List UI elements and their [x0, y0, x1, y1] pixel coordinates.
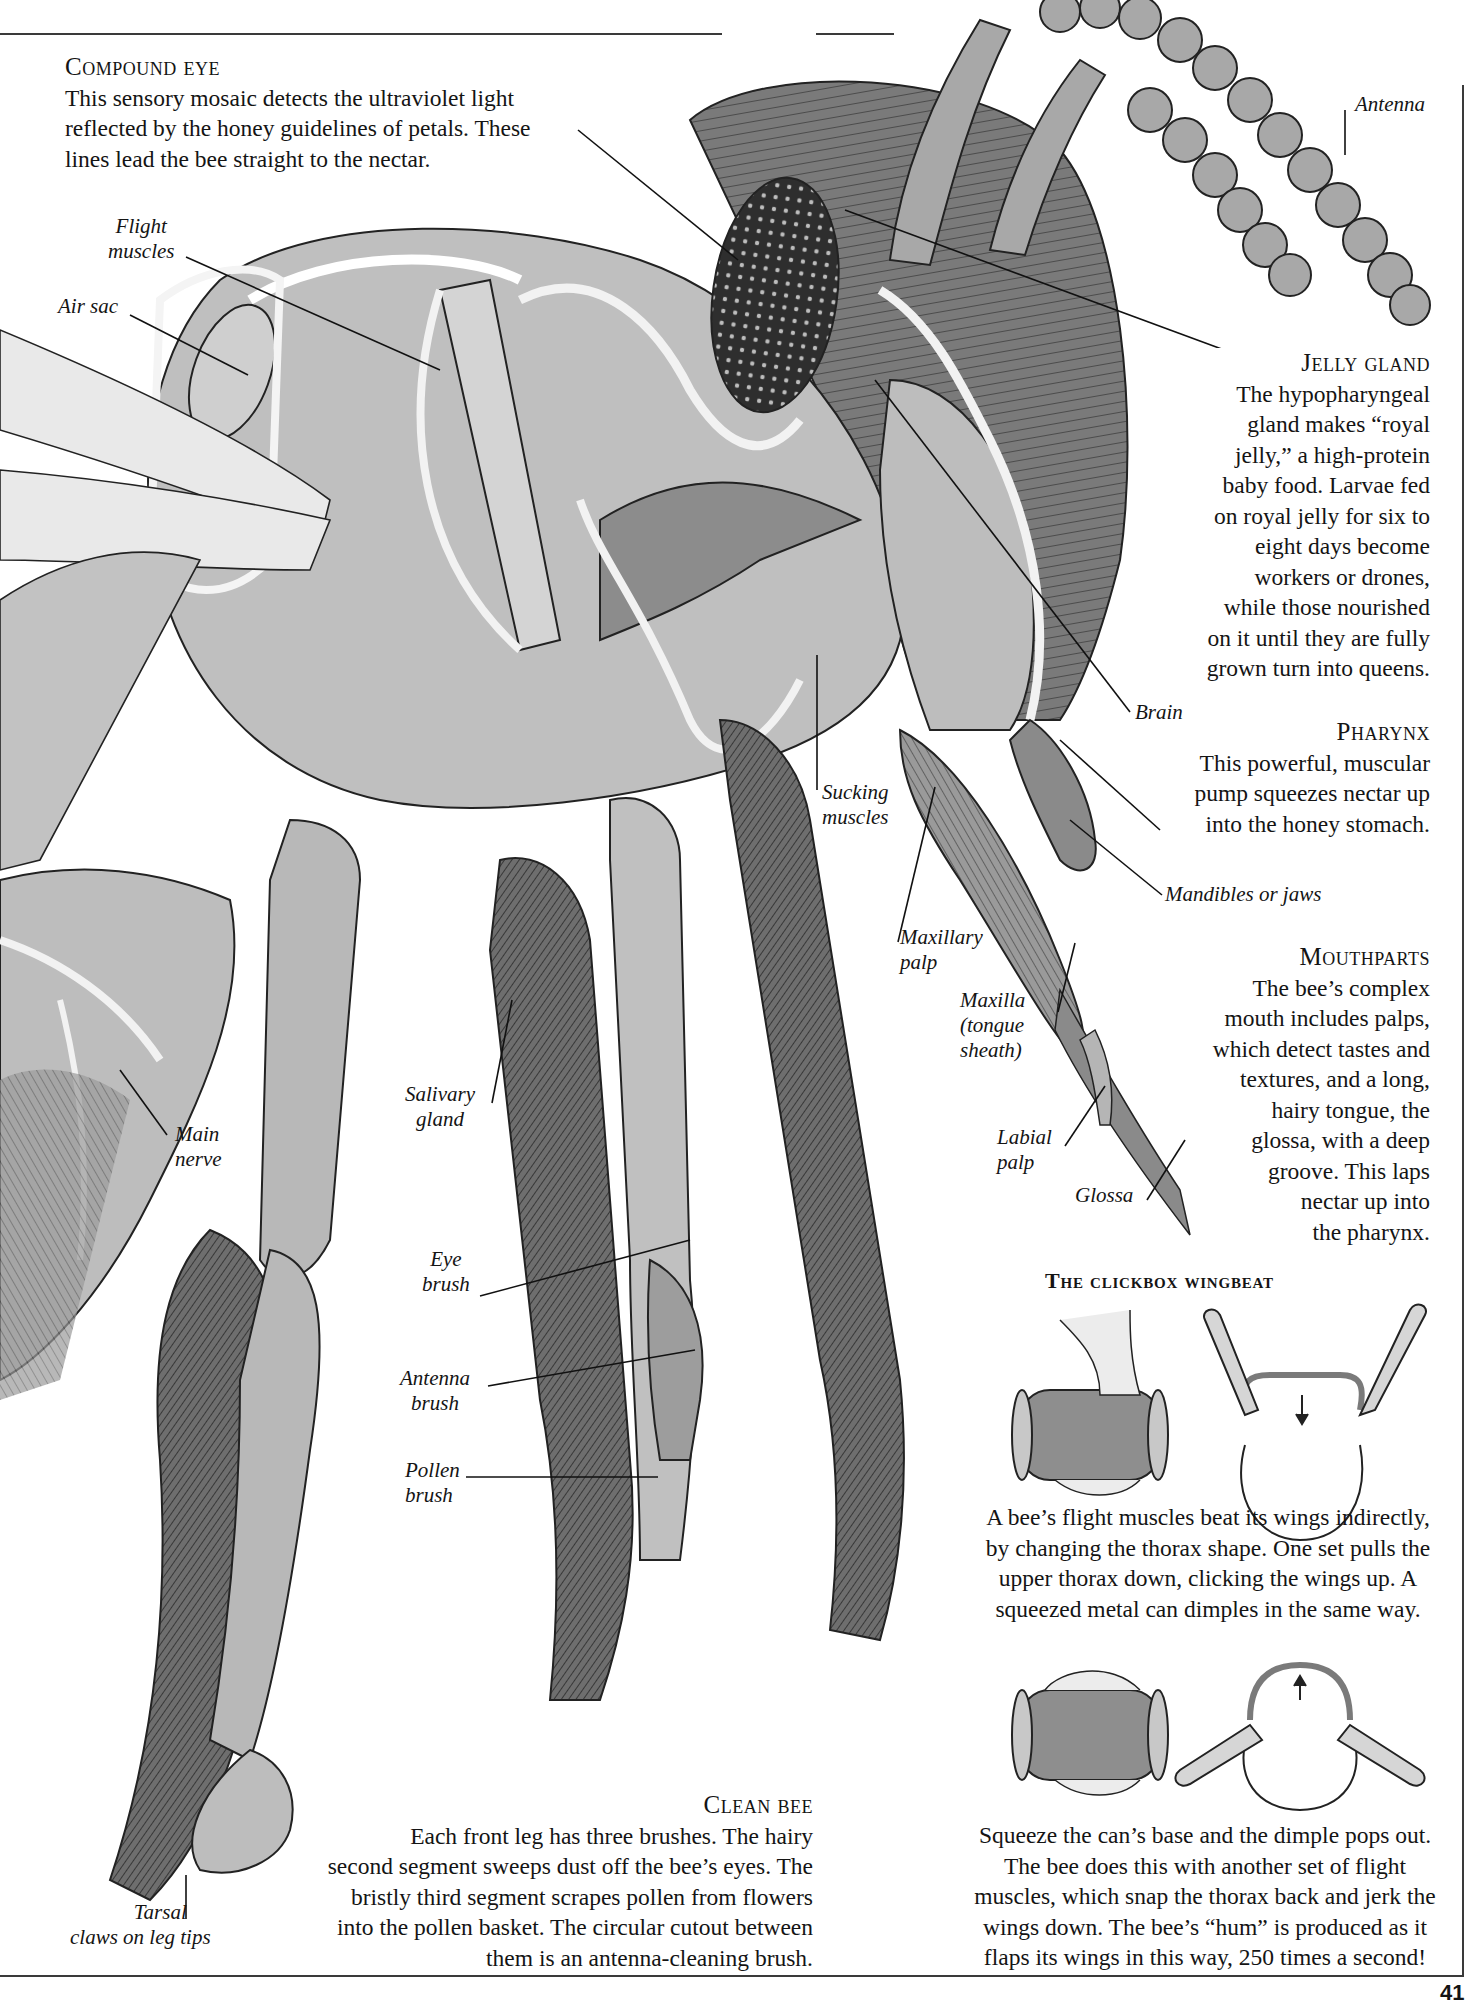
label-labial-palp: Labial palp	[997, 1125, 1052, 1175]
caption-line: workers or drones,	[1207, 562, 1430, 593]
caption-line: pump squeezes nectar up	[1194, 778, 1430, 809]
caption-line: glossa, with a deep	[1213, 1125, 1430, 1156]
label-line: gland	[405, 1107, 475, 1132]
caption-line: reflected by the honey guidelines of pet…	[65, 113, 531, 144]
caption-line: the pharynx.	[1213, 1217, 1430, 1248]
caption-line: squeezed metal can dimples in the same w…	[948, 1594, 1468, 1625]
caption-line: second segment sweeps dust off the bee’s…	[328, 1851, 813, 1882]
clickbox-text-up: A bee’s flight muscles beat its wings in…	[948, 1502, 1468, 1624]
caption-line: while those nourished	[1207, 592, 1430, 623]
clickbox-title: The clickbox wingbeat	[1045, 1268, 1274, 1294]
label-line: Antenna	[400, 1366, 470, 1391]
caption-line: bristly third segment scrapes pollen fro…	[328, 1882, 813, 1913]
caption-line: on it until they are fully	[1207, 623, 1430, 654]
caption-line: textures, and a long,	[1213, 1064, 1430, 1095]
label-maxilla: Maxilla (tongue sheath)	[960, 988, 1025, 1063]
bottom-rule	[0, 1975, 1464, 1977]
caption-line: lines lead the bee straight to the necta…	[65, 144, 531, 175]
label-line: claws on leg tips	[70, 1925, 211, 1950]
clickbox-can-up-drawing	[1012, 1310, 1168, 1495]
label-line: Tarsal	[70, 1900, 211, 1925]
caption-line: hairy tongue, the	[1213, 1095, 1430, 1126]
clickbox-thorax-down-drawing	[1175, 1665, 1424, 1810]
caption-title: Pharynx	[1194, 717, 1430, 748]
label-main-nerve: Main nerve	[175, 1122, 222, 1172]
label-flight-muscles: Flight muscles	[108, 214, 175, 264]
caption-clean-bee: Clean bee Each front leg has three brush…	[328, 1790, 813, 1973]
caption-line: them is an antenna-cleaning brush.	[328, 1943, 813, 1974]
label-line: Maxillary	[900, 925, 983, 950]
caption-title: Jelly gland	[1207, 348, 1430, 379]
caption-line: wings down. The bee’s “hum” is produced …	[940, 1912, 1470, 1943]
label-line: Labial	[997, 1125, 1052, 1150]
label-line: brush	[405, 1483, 460, 1508]
label-maxillary-palp: Maxillary palp	[900, 925, 983, 975]
caption-pharynx: Pharynx This powerful, muscular pump squ…	[1194, 717, 1430, 839]
caption-mouthparts: Mouthparts The bee’s complex mouth inclu…	[1213, 942, 1430, 1247]
caption-line: into the pollen basket. The circular cut…	[328, 1912, 813, 1943]
label-tarsal-claws: Tarsal claws on leg tips	[70, 1900, 211, 1950]
caption-line: This sensory mosaic detects the ultravio…	[65, 83, 531, 114]
label-line: muscles	[108, 239, 175, 264]
label-line: Maxilla	[960, 988, 1025, 1013]
label-line: palp	[997, 1150, 1052, 1175]
label-line: Pollen	[405, 1458, 460, 1483]
caption-line: gland makes “royal	[1207, 409, 1430, 440]
label-pollen-brush: Pollen brush	[405, 1458, 460, 1508]
caption-line: A bee’s flight muscles beat its wings in…	[948, 1502, 1468, 1533]
label-eye-brush: Eye brush	[422, 1247, 470, 1297]
caption-line: upper thorax down, clicking the wings up…	[948, 1563, 1468, 1594]
caption-line: The bee does this with another set of fl…	[940, 1851, 1470, 1882]
caption-line: into the honey stomach.	[1194, 809, 1430, 840]
caption-line: nectar up into	[1213, 1186, 1430, 1217]
caption-title: Clean bee	[328, 1790, 813, 1821]
right-rule	[1462, 85, 1464, 1976]
caption-line: Each front leg has three brushes. The ha…	[328, 1821, 813, 1852]
label-sucking-muscles: Sucking muscles	[822, 780, 889, 830]
label-antenna-brush: Antenna brush	[400, 1366, 470, 1416]
top-rule	[0, 33, 722, 35]
top-rule-right	[816, 33, 894, 35]
label-line: Eye	[422, 1247, 470, 1272]
label-mandibles: Mandibles or jaws	[1165, 882, 1321, 907]
label-glossa: Glossa	[1075, 1183, 1133, 1208]
label-line: sheath)	[960, 1038, 1025, 1063]
page-number: 41	[1440, 1980, 1464, 2004]
caption-line: The hypopharyngeal	[1207, 379, 1430, 410]
caption-jelly-gland: Jelly gland The hypopharyngeal gland mak…	[1207, 348, 1430, 684]
clickbox-text-down: Squeeze the can’s base and the dimple po…	[940, 1820, 1470, 1973]
clickbox-can-down-drawing	[1012, 1671, 1168, 1795]
label-line: nerve	[175, 1147, 222, 1172]
label-line: Flight	[108, 214, 175, 239]
caption-line: grown turn into queens.	[1207, 653, 1430, 684]
label-salivary-gland: Salivary gland	[405, 1082, 475, 1132]
label-line: Sucking	[822, 780, 889, 805]
caption-line: The bee’s complex	[1213, 973, 1430, 1004]
label-line: palp	[900, 950, 983, 975]
label-line: brush	[422, 1272, 470, 1297]
caption-line: on royal jelly for six to	[1207, 501, 1430, 532]
caption-line: eight days become	[1207, 531, 1430, 562]
caption-line: baby food. Larvae fed	[1207, 470, 1430, 501]
caption-compound-eye: Compound eye This sensory mosaic detects…	[65, 52, 531, 174]
label-line: muscles	[822, 805, 889, 830]
caption-line: muscles, which snap the thorax back and …	[940, 1881, 1470, 1912]
label-line: (tongue	[960, 1013, 1025, 1038]
label-line: Salivary	[405, 1082, 475, 1107]
caption-line: jelly,” a high-protein	[1207, 440, 1430, 471]
label-line: Main	[175, 1122, 222, 1147]
label-air-sac: Air sac	[58, 294, 118, 319]
caption-line: flaps its wings in this way, 250 times a…	[940, 1942, 1470, 1973]
caption-title: Mouthparts	[1213, 942, 1430, 973]
label-antenna: Antenna	[1355, 92, 1425, 117]
caption-line: which detect tastes and	[1213, 1034, 1430, 1065]
caption-line: mouth includes palps,	[1213, 1003, 1430, 1034]
caption-line: This powerful, muscular	[1194, 748, 1430, 779]
legs-drawing	[110, 720, 904, 1900]
label-brain: Brain	[1135, 700, 1183, 725]
caption-line: by changing the thorax shape. One set pu…	[948, 1533, 1468, 1564]
caption-line: groove. This laps	[1213, 1156, 1430, 1187]
caption-line: Squeeze the can’s base and the dimple po…	[940, 1820, 1470, 1851]
caption-title: Compound eye	[65, 52, 531, 83]
label-line: brush	[400, 1391, 470, 1416]
